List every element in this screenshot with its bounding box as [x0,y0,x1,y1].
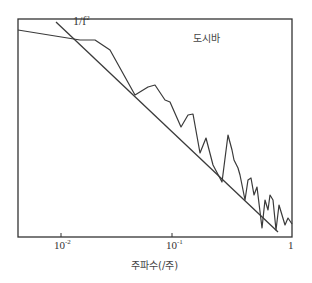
x-tick-label-1e-2: 10-2 [54,238,71,251]
chart-title: 도시바 [193,30,220,45]
chart-plot [0,0,312,283]
x-axis-label: 주파수(/주) [131,257,178,272]
spectrum-line [18,30,292,230]
x-tick-label-1e-1: 10-1 [166,238,183,251]
plot-frame [18,19,292,237]
annotation-1-over-f2: 1/f2 [73,14,90,29]
x-tick-label-1: 1 [288,239,294,251]
